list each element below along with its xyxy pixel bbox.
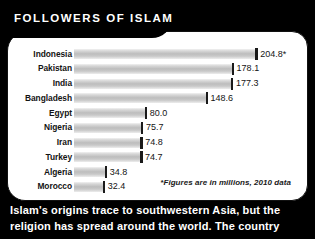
chart-row: Pakistan178.1 (8, 62, 308, 75)
bar-end-marker (255, 48, 257, 60)
bar (74, 182, 103, 192)
chart-row: Turkey74.7 (8, 151, 308, 164)
bar-label: Bangladesh (8, 92, 72, 105)
bar-value: 178.1 (237, 62, 260, 75)
bar-end-marker (141, 122, 143, 134)
bar-end-marker (140, 137, 142, 149)
bar-end-marker (105, 166, 107, 178)
chart-row: Bangladesh148.6 (8, 92, 308, 105)
bar (74, 49, 255, 59)
caption-line-1: Islam's origins trace to southwestern As… (10, 203, 310, 219)
bar-label: Algeria (8, 166, 72, 179)
bar-end-marker (231, 78, 233, 90)
bar-value: 148.6 (211, 92, 234, 105)
bar-end-marker (206, 92, 208, 104)
bar (74, 167, 105, 177)
bar-value: 80.0 (150, 107, 168, 120)
bar-value: 32.4 (108, 180, 126, 193)
chart-row: India177.3 (8, 77, 308, 90)
bar-end-marker (232, 63, 234, 75)
bar-label: Morocco (8, 180, 72, 193)
bar (74, 79, 231, 89)
caption-line-2: religion has spread around the world. Th… (10, 219, 310, 235)
bar-chart: Indonesia204.8*Pakistan178.1India177.3Ba… (8, 32, 308, 201)
bar-label: Turkey (8, 151, 72, 164)
bar-value: 74.8 (145, 136, 163, 149)
bar-end-marker (145, 107, 147, 119)
chart-row: Indonesia204.8* (8, 48, 308, 61)
bar-value: 177.3 (236, 77, 259, 90)
bar (74, 108, 145, 118)
bar-label: Nigeria (8, 121, 72, 134)
bar-label: Egypt (8, 107, 72, 120)
bar (74, 152, 140, 162)
chart-row: Algeria34.8 (8, 166, 308, 179)
chart-panel: Indonesia204.8*Pakistan178.1India177.3Ba… (7, 31, 308, 201)
chart-row: Nigeria75.7 (8, 121, 308, 134)
bar-label: Indonesia (8, 48, 72, 61)
chart-row: Iran74.8 (8, 136, 308, 149)
chart-footnote: *Figures are in millions, 2010 data (160, 178, 291, 187)
infographic-root: FOLLOWERS OF ISLAM Indonesia204.8*Pakist… (0, 0, 315, 239)
bar-value: 34.8 (110, 166, 128, 179)
bar-value: 204.8* (260, 48, 286, 61)
bar-label: Pakistan (8, 62, 72, 75)
page-title: FOLLOWERS OF ISLAM (14, 12, 174, 24)
bar (74, 138, 140, 148)
bar-label: India (8, 77, 72, 90)
bar-value: 74.7 (145, 151, 163, 164)
caption-text: Islam's origins trace to southwestern As… (10, 203, 310, 234)
bar-value: 75.7 (146, 121, 164, 134)
bar-end-marker (140, 151, 142, 163)
bar-end-marker (103, 181, 105, 193)
chart-row: Egypt80.0 (8, 107, 308, 120)
bar (74, 64, 232, 74)
bar-label: Iran (8, 136, 72, 149)
bar (74, 93, 206, 103)
bar (74, 123, 141, 133)
